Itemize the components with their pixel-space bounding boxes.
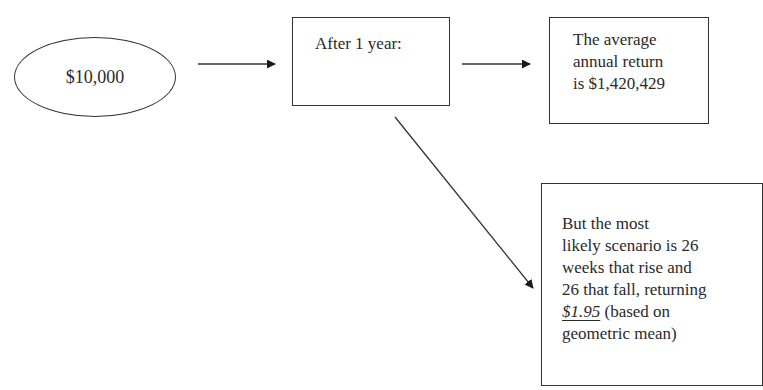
likely-scenario-line-1: But the most <box>562 213 756 235</box>
likely-scenario-line-4: 26 that fall, returning <box>562 279 756 301</box>
likely-return-value: $1.95 <box>562 302 600 321</box>
likely-scenario-line-6: geometric mean) <box>562 323 756 345</box>
average-return-line-3: is $1,420,429 <box>573 73 698 95</box>
start-amount-node: $10,000 <box>14 37 176 117</box>
likely-scenario-line-5: $1.95 (based on <box>562 301 756 323</box>
average-return-line-1: The average <box>573 29 698 51</box>
after-one-year-node: After 1 year: <box>292 17 450 106</box>
likely-scenario-line-2: likely scenario is 26 <box>562 235 756 257</box>
likely-return-note: (based on <box>600 302 670 321</box>
arrow-step-to-likely <box>395 117 533 288</box>
start-amount-label: $10,000 <box>66 67 125 88</box>
likely-scenario-node: But the most likely scenario is 26 weeks… <box>541 183 763 386</box>
after-one-year-label: After 1 year: <box>315 33 449 55</box>
likely-scenario-line-3: weeks that rise and <box>562 257 756 279</box>
average-return-line-2: annual return <box>573 51 698 73</box>
average-return-node: The average annual return is $1,420,429 <box>549 17 709 124</box>
